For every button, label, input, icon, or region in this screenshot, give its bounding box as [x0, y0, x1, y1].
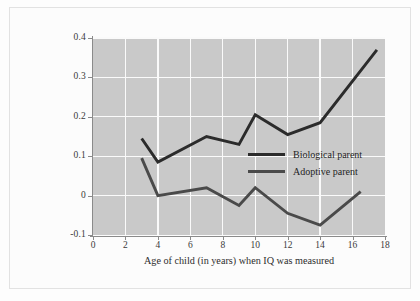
x-tick-label: 2	[123, 240, 128, 250]
y-tick-mark	[88, 196, 92, 197]
x-tick-label: 18	[380, 240, 390, 250]
x-tick-label: 6	[188, 240, 193, 250]
y-tick-label: 0.3	[58, 71, 86, 81]
y-tick-label: 0	[58, 190, 86, 200]
plot-area	[93, 38, 385, 235]
x-tick-label: 12	[283, 240, 293, 250]
legend-label: Biological parent	[293, 149, 362, 160]
gridline-horizontal	[93, 116, 385, 117]
y-tick-mark	[88, 156, 92, 157]
x-tick-label: 10	[250, 240, 260, 250]
y-tick-label: 0.4	[58, 32, 86, 42]
gridline-vertical	[190, 38, 191, 235]
chart-legend: Biological parentAdoptive parent	[248, 146, 378, 180]
gridline-horizontal	[93, 37, 385, 38]
gridline-vertical	[125, 38, 126, 235]
gridline-vertical	[157, 38, 158, 235]
y-tick-mark	[88, 77, 92, 78]
gridline-horizontal	[93, 77, 385, 78]
legend-label: Adoptive parent	[293, 166, 358, 177]
gridline-vertical	[255, 38, 256, 235]
legend-item: Adoptive parent	[248, 163, 378, 180]
y-tick-mark	[88, 117, 92, 118]
chart-figure: -0.100.10.20.30.4 024681012141618 Correl…	[0, 0, 420, 301]
gridline-vertical	[319, 38, 320, 235]
legend-item: Biological parent	[248, 146, 378, 163]
gridline-horizontal	[93, 195, 385, 196]
x-axis-line	[90, 236, 387, 237]
legend-swatch	[248, 153, 285, 156]
y-tick-mark	[88, 235, 92, 236]
gridline-vertical	[222, 38, 223, 235]
x-tick-label: 14	[315, 240, 325, 250]
x-tick-label: 0	[91, 240, 96, 250]
x-tick-label: 8	[220, 240, 225, 250]
x-tick-label: 4	[156, 240, 161, 250]
legend-swatch	[248, 170, 285, 173]
y-tick-mark	[88, 38, 92, 39]
gridline-vertical	[352, 38, 353, 235]
y-axis-line	[92, 36, 93, 237]
y-tick-label: -0.1	[58, 229, 86, 239]
x-axis-title: Age of child (in years) when IQ was meas…	[93, 255, 385, 266]
y-tick-label: 0.1	[58, 150, 86, 160]
y-tick-label: 0.2	[58, 111, 86, 121]
gridline-vertical	[287, 38, 288, 235]
x-tick-label: 16	[348, 240, 358, 250]
